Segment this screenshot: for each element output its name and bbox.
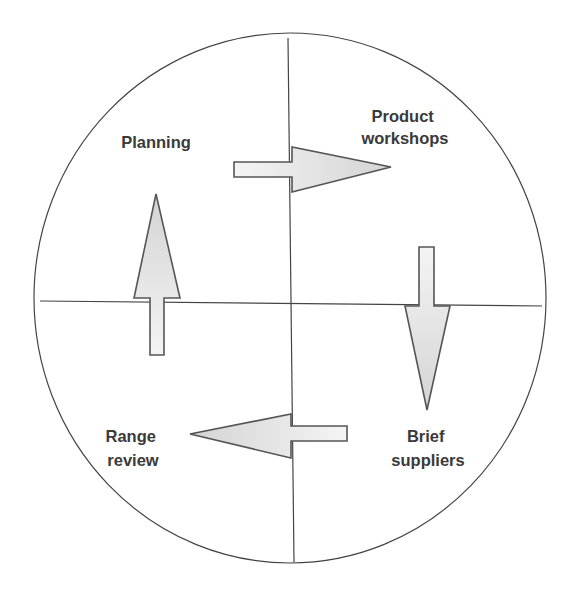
cycle-diagram: Planning Product workshops Brief supplie… xyxy=(0,0,571,591)
outer-circle xyxy=(34,33,546,563)
label-range-review: Range review xyxy=(105,427,160,469)
label-brief-suppliers: Brief suppliers xyxy=(391,427,464,469)
arrow-up-icon xyxy=(134,194,180,355)
arrow-right-icon xyxy=(234,147,391,192)
arrow-left-icon xyxy=(190,414,347,458)
label-planning: Planning xyxy=(121,133,191,151)
arrow-down-icon xyxy=(405,247,450,410)
label-product-workshops: Product workshops xyxy=(360,107,448,147)
vertical-divider xyxy=(288,38,294,562)
